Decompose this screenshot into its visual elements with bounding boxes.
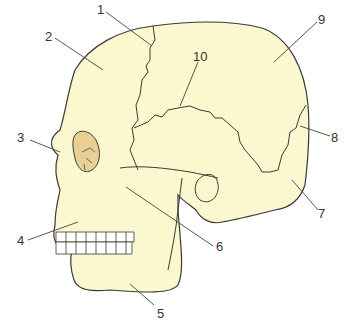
label-4: 4 — [17, 234, 24, 247]
label-7: 7 — [318, 207, 325, 220]
skull-illustration — [0, 0, 345, 333]
label-10: 10 — [193, 50, 207, 63]
label-9: 9 — [318, 13, 325, 26]
label-5: 5 — [157, 307, 164, 320]
teeth — [56, 232, 134, 254]
label-8: 8 — [331, 131, 338, 144]
label-1: 1 — [97, 3, 104, 16]
label-6: 6 — [216, 240, 223, 253]
label-3: 3 — [17, 131, 24, 144]
skull-diagram: 1 2 3 4 5 6 7 8 9 10 — [0, 0, 345, 333]
label-2: 2 — [45, 30, 52, 43]
